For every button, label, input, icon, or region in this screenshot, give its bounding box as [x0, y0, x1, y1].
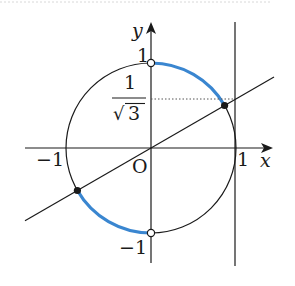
- highlight-arc-lower: [77, 191, 151, 234]
- filled-point-lower: [74, 187, 81, 194]
- origin-label: O: [132, 155, 148, 177]
- y-axis-label: y: [131, 19, 143, 41]
- fraction-denominator: 3: [128, 102, 140, 124]
- fraction-numerator: 1: [124, 71, 136, 93]
- open-point-bottom: [147, 229, 154, 236]
- x-axis-label: x: [260, 149, 271, 171]
- tick-label-x-pos-one: 1: [237, 148, 249, 170]
- unit-circle-diagram: y x O −1 1 1 −1 1 √ 3: [0, 0, 295, 286]
- radical-sign-icon: √: [113, 103, 125, 124]
- fraction-one-over-root-three: 1 √ 3: [112, 71, 146, 124]
- filled-point-upper: [221, 102, 228, 109]
- tick-label-y-pos-one: 1: [137, 44, 149, 66]
- tick-label-y-neg-one: −1: [119, 236, 147, 258]
- tick-label-x-neg-one: −1: [36, 148, 64, 170]
